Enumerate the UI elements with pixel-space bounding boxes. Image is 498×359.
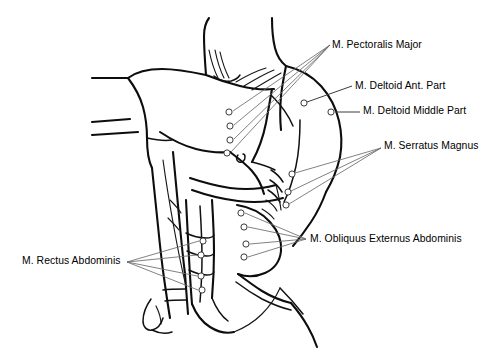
groin-crease [234,288,280,332]
marker-obliquus-2 [241,224,247,230]
arm-left-descending [152,168,164,278]
wrist-left-crease-b [165,300,187,301]
label-rectus-abdominis: M. Rectus Abdominis [22,255,121,267]
label-obliquus-externus-abdominis: M. Obliquus Externus Abdominis [310,233,462,245]
leader-group-deltoid-anterior [301,86,352,106]
hand-left-crease [156,306,161,324]
marker-pectoralis-4 [224,150,230,156]
label-deltoid-anterior: M. Deltoid Ant. Part [355,80,446,92]
serratus-digitation-1 [271,170,283,182]
label-deltoid-middle: M. Deltoid Middle Part [363,105,466,117]
marker-pectoralis-2 [227,123,233,129]
neck-striation-1 [209,50,218,78]
leader-line-serratus-3 [289,148,381,204]
forearm-left-inner [185,274,188,314]
marker-serratus-1 [289,171,295,177]
marker-rectus-4 [199,287,205,293]
arm-left-lower-contour [92,132,138,135]
pectoralis-right-lower-border [252,162,275,170]
marker-pectoralis-1 [226,109,232,115]
label-serratus-magnus: M. Serratus Magnus [384,140,478,152]
inguinal-line [236,282,291,310]
neck-right-contour [272,18,286,66]
leader-line-serratus-1 [295,148,381,173]
pubic-contour [212,298,228,321]
leader-line-obliquus-1 [245,213,306,239]
oblique-flank-bulge [237,205,281,276]
forearm-left-outer [164,278,170,318]
leader-line-deltoid-anterior [307,86,352,102]
rectus-right-border [212,200,214,298]
anatomy-figure: M. Pectoralis Major M. Deltoid Ant. Part… [0,0,498,359]
marker-obliquus-1 [238,210,244,216]
hand-left-edge [152,330,172,333]
neck-striation-3 [220,52,229,78]
leader-line-pectoralis-2 [234,45,330,125]
marker-obliquus-3 [243,241,249,247]
leader-line-serratus-2 [291,148,381,191]
clavicle-striation-2 [244,70,274,86]
label-pectoralis-major: M. Pectoralis Major [332,39,422,51]
marker-pectoralis-3 [227,137,233,143]
marker-rectus-3 [198,273,204,279]
marker-serratus-2 [285,189,291,195]
body-outline-group [92,18,341,347]
oblique-left-detail-1 [170,200,181,213]
leader-line-obliquus-2 [248,227,306,239]
lower-abdomen-contour [192,304,234,333]
neck-left-contour [204,18,209,75]
marker-deltoid-middle [328,109,334,115]
deltoid-left-mass [128,78,152,168]
hip-right-contour [291,303,317,347]
leader-group-rectus-abdominis [127,238,206,293]
arm-left-mid-contour [92,119,130,122]
marker-serratus-3 [283,202,289,208]
marker-rectus-2 [198,252,204,258]
leader-group-deltoid-middle [328,109,360,115]
tendinous-intersection-1 [186,233,214,238]
abdominal-fold-lower [192,190,283,202]
marker-deltoid-anterior [301,100,307,106]
serratus-digitation-5 [262,209,274,219]
leader-line-pectoralis-3 [234,45,330,139]
abdominal-fold-upper [190,178,276,189]
wrist-left-crease-a [163,289,185,290]
clavicle-left [128,69,206,78]
pectoralis-left-lower-border [160,132,230,152]
anatomy-illustration [0,0,498,359]
marker-rectus-1 [200,238,206,244]
deltoid-right-crease [272,96,293,126]
marker-obliquus-4 [241,254,247,260]
